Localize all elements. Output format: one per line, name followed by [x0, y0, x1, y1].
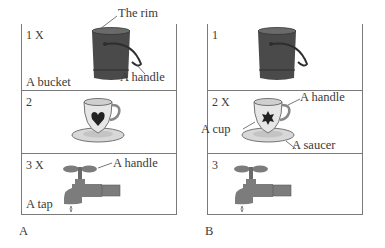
panel-b-row-1: 1: [208, 24, 362, 90]
panel-b: 1 2 X A handle A cup A saucer 3: [207, 24, 363, 215]
panel-a-row-2: 2: [22, 90, 176, 153]
row-number: 2: [26, 95, 32, 110]
panel-a: 1 X The rim A handle A bucket 2 3 X: [21, 24, 177, 215]
label-a-bucket: A bucket: [26, 75, 71, 90]
tap-icon: [233, 154, 343, 214]
row-number: 3: [212, 158, 218, 173]
cup-icon: [62, 91, 142, 151]
label-a-tap: A tap: [26, 197, 53, 212]
label-a-handle: A handle: [300, 90, 345, 105]
bucket-icon: [228, 24, 308, 90]
label-a-handle: A handle: [120, 70, 165, 85]
panel-a-row-1: 1 X The rim A handle A bucket: [22, 24, 176, 90]
label-a-handle: A handle: [113, 156, 158, 171]
label-the-rim: The rim: [118, 6, 158, 21]
label-a-cup: A cup: [201, 122, 231, 137]
caption-a: A: [19, 224, 28, 239]
row-number: 1: [212, 28, 218, 43]
panel-b-row-2: 2 X A handle A cup A saucer: [208, 90, 362, 153]
panel-b-row-3: 3: [208, 153, 362, 215]
panel-a-row-3: 3 X A handle A tap: [22, 153, 176, 215]
caption-b: B: [205, 224, 213, 239]
label-a-saucer: A saucer: [292, 138, 335, 153]
